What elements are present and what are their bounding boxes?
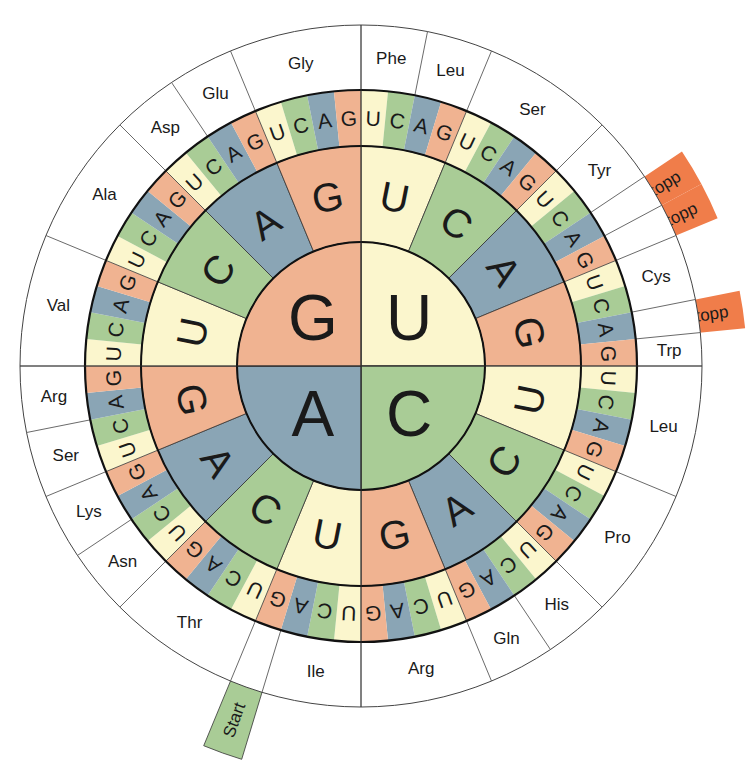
amino-acid-label: Gln (493, 629, 519, 648)
amino-acid-label: Tyr (588, 161, 612, 180)
third-base-letter: G (101, 369, 125, 386)
amino-acid-label: Cys (642, 267, 671, 286)
third-base-letter: U (597, 370, 621, 386)
third-base-letter: G (597, 345, 621, 362)
amino-acid-label: Leu (436, 61, 464, 80)
third-base-letter: U (101, 346, 125, 362)
first-base-letter: A (291, 378, 334, 450)
first-base-letter: G (288, 282, 338, 354)
first-base-letter: U (386, 282, 432, 354)
amino-acid-label: Asp (151, 118, 180, 137)
amino-acid-label: Ser (53, 446, 80, 465)
amino-acid-label: Ala (92, 185, 117, 204)
amino-acid-label: Glu (202, 84, 228, 103)
amino-acid-label: Ser (519, 100, 546, 119)
amino-acid-label: Thr (177, 613, 203, 632)
amino-acid-label: Gly (288, 54, 314, 73)
amino-acid-label: Arg (41, 387, 67, 406)
third-base-letter: U (341, 602, 357, 626)
amino-acid-label: Leu (649, 417, 677, 436)
amino-acid-label: Asn (108, 552, 137, 571)
amino-acid-label: His (544, 595, 569, 614)
first-base-letter: C (386, 378, 432, 450)
third-base-letter: U (365, 106, 381, 130)
amino-acid-label: Phe (376, 49, 406, 68)
amino-acid-label: Lys (76, 502, 102, 521)
codon-wheel-svg: StoppStoppStoppMetStart PheLeuSerTyrCysT… (0, 0, 750, 773)
codon-wheel: StoppStoppStoppMetStart PheLeuSerTyrCysT… (0, 0, 750, 773)
amino-acid-label: Ile (307, 662, 325, 681)
amino-acid-label: Trp (657, 341, 682, 360)
amino-acid-label: Arg (408, 659, 434, 678)
amino-acid-label: Val (47, 296, 70, 315)
third-base-letter: G (340, 106, 357, 130)
amino-acid-label: Pro (604, 528, 630, 547)
third-base-letter: G (364, 602, 381, 626)
